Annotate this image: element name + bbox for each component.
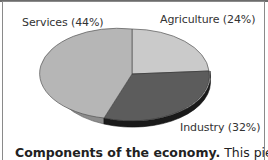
pie-slice-agriculture <box>132 29 209 74</box>
label-services: Services (44%) <box>22 16 104 29</box>
caption-title: Components of the economy. <box>15 145 220 160</box>
label-industry: Industry (32%) <box>180 121 260 134</box>
figure-caption: Components of the economy. This pie char… <box>15 145 268 160</box>
label-agriculture: Agriculture (24%) <box>160 13 255 26</box>
caption-text: This pie chart <box>220 145 268 160</box>
